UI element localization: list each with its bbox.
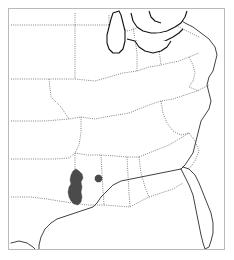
map-canvas — [9, 9, 224, 249]
map-frame — [8, 8, 225, 250]
distribution-map-figure — [0, 0, 234, 260]
range-patch-mississippi — [95, 175, 102, 182]
